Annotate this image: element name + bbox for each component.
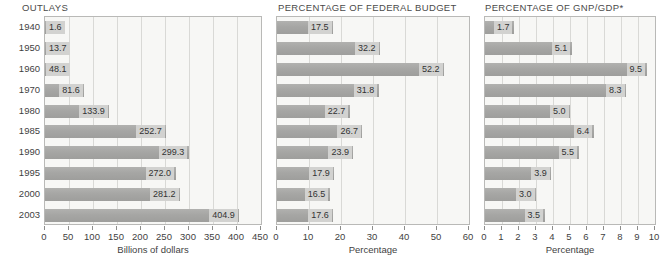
plot-area-outlays: 1.613.748.181.6133.9252.7299.3272.0281.2… xyxy=(44,16,262,225)
plot-area-gnp-gdp: 1.75.19.58.35.06.45.53.93.03.5 xyxy=(484,16,656,225)
axis-tick-label: 400 xyxy=(228,231,244,242)
year-label: 1940 xyxy=(0,22,40,32)
year-label: 1990 xyxy=(0,147,40,157)
bar-value-label: 133.9 xyxy=(79,105,108,118)
three-panel-bar-chart-figure: OUTLAYS 19401950196019701980198519901995… xyxy=(0,0,662,279)
axis-tick xyxy=(188,226,189,230)
x-axis-federal-budget: Percentage 0102030405060 xyxy=(276,226,470,252)
year-label: 1970 xyxy=(0,85,40,95)
axis-tick-label: 450 xyxy=(252,231,268,242)
axis-tick-label: 350 xyxy=(204,231,220,242)
axis-tick xyxy=(140,226,141,230)
bar-value-label: 252.7 xyxy=(136,125,165,138)
axis-tick-label: 200 xyxy=(132,231,148,242)
axis-tick xyxy=(276,226,277,230)
gridline xyxy=(638,17,639,224)
axis-tick xyxy=(552,226,553,230)
axis-tick xyxy=(637,226,638,230)
axis-tick-label: 150 xyxy=(108,231,124,242)
axis-tick xyxy=(164,226,165,230)
axis-tick-label: 8 xyxy=(617,231,622,242)
axis-tick xyxy=(92,226,93,230)
axis-tick xyxy=(569,226,570,230)
bar-value-label: 17.9 xyxy=(309,167,333,180)
axis-tick-label: 10 xyxy=(303,231,314,242)
axis-tick xyxy=(654,226,655,230)
bar xyxy=(485,63,647,76)
bar-value-label: 17.5 xyxy=(308,21,332,34)
bar-value-label: 6.4 xyxy=(574,125,593,138)
axis-tick xyxy=(404,226,405,230)
bar-value-label: 32.2 xyxy=(355,42,379,55)
axis-tick xyxy=(518,226,519,230)
axis-tick xyxy=(501,226,502,230)
axis-tick-label: 250 xyxy=(156,231,172,242)
bar-value-label: 16.5 xyxy=(305,188,329,201)
axis-tick-label: 2 xyxy=(515,231,520,242)
year-label: 2000 xyxy=(0,189,40,199)
year-label: 1960 xyxy=(0,64,40,74)
axis-tick-label: 30 xyxy=(367,231,378,242)
axis-tick-label: 9 xyxy=(634,231,639,242)
bar-value-label: 8.3 xyxy=(606,84,625,97)
bar-value-label: 5.1 xyxy=(552,42,571,55)
axis-tick xyxy=(535,226,536,230)
axis-tick xyxy=(340,226,341,230)
gridline xyxy=(587,17,588,224)
bar-value-label: 13.7 xyxy=(46,42,70,55)
axis-tick-label: 60 xyxy=(463,231,474,242)
bar-value-label: 17.6 xyxy=(308,209,332,222)
year-label: 1995 xyxy=(0,168,40,178)
axis-tick xyxy=(308,226,309,230)
axis-tick-label: 5 xyxy=(566,231,571,242)
axis-tick-label: 3 xyxy=(532,231,537,242)
gridline xyxy=(213,17,214,224)
bar-value-label: 52.2 xyxy=(419,63,443,76)
bar-value-label: 22.7 xyxy=(325,105,349,118)
chart-panel-outlays: OUTLAYS 19401950196019701980198519901995… xyxy=(0,0,268,279)
gridline xyxy=(237,17,238,224)
axis-tick-label: 0 xyxy=(41,231,46,242)
axis-tick-label: 0 xyxy=(481,231,486,242)
bar-value-label: 5.0 xyxy=(550,105,569,118)
axis-tick xyxy=(44,226,45,230)
chart-panel-federal-budget: PERCENTAGE OF FEDERAL BUDGET 17.532.252.… xyxy=(270,0,475,279)
gridline xyxy=(621,17,622,224)
axis-tick-label: 7 xyxy=(600,231,605,242)
axis-tick-label: 100 xyxy=(84,231,100,242)
bar-value-label: 81.6 xyxy=(59,84,83,97)
bar-value-label: 404.9 xyxy=(209,209,238,222)
bar-value-label: 272.0 xyxy=(146,167,175,180)
year-label: 1950 xyxy=(0,43,40,53)
axis-tick-label: 1 xyxy=(498,231,503,242)
bar-value-label: 299.3 xyxy=(159,146,188,159)
chart-panel-gnp-gdp: PERCENTAGE OF GNP/GDP* 1.75.19.58.35.06.… xyxy=(480,0,662,279)
x-axis-caption-federal-budget: Percentage xyxy=(276,244,470,255)
x-axis-outlays: Billions of dollars 05010015020025030035… xyxy=(44,226,262,252)
axis-tick-label: 40 xyxy=(399,231,410,242)
year-axis-labels: 1940195019601970198019851990199520002003 xyxy=(0,16,42,225)
bar-value-label: 3.5 xyxy=(525,209,544,222)
axis-tick xyxy=(586,226,587,230)
bar-value-label: 48.1 xyxy=(46,63,70,76)
axis-tick xyxy=(68,226,69,230)
bar-value-label: 1.6 xyxy=(46,21,65,34)
year-label: 2003 xyxy=(0,210,40,220)
bar-value-label: 3.0 xyxy=(516,188,535,201)
x-axis-caption-gnp-gdp: Percentage xyxy=(484,244,656,255)
bar-value-label: 26.7 xyxy=(337,125,361,138)
bar-value-label: 1.7 xyxy=(494,21,513,34)
axis-tick xyxy=(212,226,213,230)
axis-tick-label: 4 xyxy=(549,231,554,242)
axis-tick-label: 6 xyxy=(583,231,588,242)
axis-tick-label: 0 xyxy=(273,231,278,242)
axis-tick xyxy=(436,226,437,230)
bar-value-label: 23.9 xyxy=(328,146,352,159)
plot-area-federal-budget: 17.532.252.231.822.726.723.917.916.517.6 xyxy=(276,16,470,225)
axis-tick xyxy=(620,226,621,230)
axis-tick xyxy=(468,226,469,230)
axis-tick xyxy=(236,226,237,230)
axis-tick-label: 50 xyxy=(63,231,74,242)
bar-value-label: 281.2 xyxy=(150,188,179,201)
year-label: 1985 xyxy=(0,126,40,136)
